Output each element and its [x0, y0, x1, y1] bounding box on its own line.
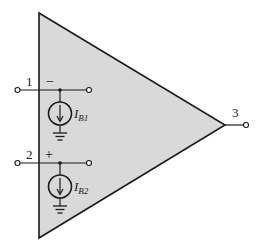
- terminal-3[interactable]: [244, 123, 249, 128]
- terminal-1-label: 1: [26, 74, 33, 89]
- inverting-sign: −: [46, 74, 54, 89]
- terminal-2[interactable]: [15, 161, 20, 166]
- terminal-3-label: 3: [232, 105, 239, 120]
- amplifier-triangle: [39, 13, 225, 238]
- internal-terminal-2: [87, 161, 92, 166]
- noninverting-sign: +: [45, 147, 53, 162]
- output-branch: 3: [225, 105, 249, 128]
- internal-terminal-1: [87, 88, 92, 93]
- terminal-2-label: 2: [26, 147, 33, 162]
- terminal-1[interactable]: [15, 88, 20, 93]
- op-amp-diagram: 1 − IB1 2 + IB2 3: [0, 0, 263, 243]
